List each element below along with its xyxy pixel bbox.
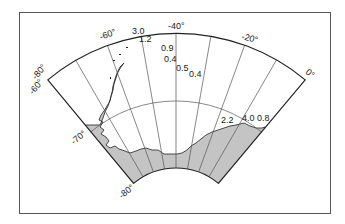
island bbox=[119, 54, 121, 55]
value-label: 0.5 bbox=[176, 63, 189, 73]
antarctic-land bbox=[30, 63, 320, 200]
lat-label--80: -80° bbox=[117, 182, 136, 201]
latitude-labels: -60° -70° -80° bbox=[27, 77, 136, 201]
value-label: 0.4 bbox=[164, 54, 177, 64]
value-label: 0.8 bbox=[257, 113, 270, 123]
islands bbox=[110, 47, 128, 79]
value-label: 1.2 bbox=[139, 34, 152, 44]
lat-label--60: -60° bbox=[27, 77, 46, 96]
lon-label-0: 0° bbox=[304, 67, 317, 80]
meridian--70 bbox=[76, 60, 144, 177]
polar-sector-map: -80° -60° -40° -20° 0° -60° -70° -80° 3.… bbox=[0, 0, 345, 224]
island bbox=[113, 60, 115, 61]
value-label: 2.2 bbox=[221, 115, 234, 125]
value-label: 0.9 bbox=[161, 43, 174, 53]
lon-label--40: -40° bbox=[168, 21, 185, 31]
land-mass bbox=[30, 63, 320, 200]
lon-label--20: -20° bbox=[240, 31, 259, 45]
island bbox=[110, 77, 111, 79]
island bbox=[126, 47, 128, 48]
lon-label--80: -80° bbox=[30, 62, 49, 81]
lon-label--60: -60° bbox=[98, 27, 117, 42]
value-label: 4.0 bbox=[242, 113, 255, 123]
value-label: 0.4 bbox=[189, 69, 202, 79]
lat-label--70: -70° bbox=[69, 128, 88, 147]
